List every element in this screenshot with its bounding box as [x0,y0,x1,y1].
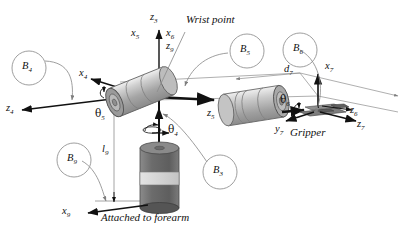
axis-label-x7: x7 [325,61,333,74]
angle-label-theta5: θ5 [95,108,105,122]
diagram-canvas [0,0,404,233]
axis-label-z3: z3 [150,12,158,25]
attached-to-forearm-label: Attached to forearm [101,212,189,223]
axis-label-z5: z5 [207,108,215,121]
axis-label-z7: z7 [357,119,365,132]
body-label-b4: B4 [22,61,32,74]
body-label-b9: B9 [67,153,77,166]
length-label-d7: d7 [284,64,293,77]
body-label-b3: B3 [213,165,223,178]
axis-label-y7: y7 [275,124,283,137]
body-label-b6: B6 [293,43,303,56]
axis-label-x9: x9 [62,206,70,219]
axis-label-x5: x5 [131,28,139,41]
axis-label-z4: z4 [6,103,14,116]
robot-wrist-kinematics-diagram: z3 x5 x6 z9 x4 z4 z5 x7 y7 z6 z7 x9 θ5 θ… [0,0,404,233]
length-label-l9: l9 [102,144,108,157]
axis-label-z6: z6 [350,105,358,118]
angle-label-theta6: θ6 [280,94,290,108]
gripper-label: Gripper [290,127,325,138]
wrist-point-label: Wrist point [186,14,235,25]
angle-label-theta4: θ4 [168,124,178,138]
body-label-b5: B5 [240,44,250,57]
axis-label-x4: x4 [79,68,87,81]
axis-label-z9: z9 [166,41,174,54]
